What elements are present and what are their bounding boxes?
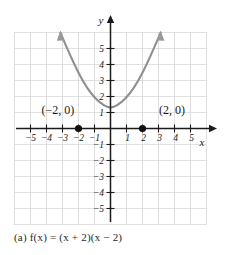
x-tick-label-5: 5 <box>189 133 194 143</box>
y-tick-label--3: −3 <box>93 172 104 182</box>
y-tick-label--1: −1 <box>93 140 104 150</box>
x-axis-arrow <box>209 125 217 132</box>
x-tick-label--5: −5 <box>25 133 36 143</box>
x-tick-label-2: 2 <box>141 133 146 143</box>
y-tick-label--4: −4 <box>93 188 104 198</box>
x-tick-label-3: 3 <box>156 133 162 143</box>
y-tick-label-5: 5 <box>99 44 104 54</box>
left-root-label: (−2, 0) <box>42 103 75 117</box>
y-axis-arrow <box>107 15 114 23</box>
y-axis-name: y <box>98 14 104 26</box>
root-point-right <box>139 125 146 132</box>
y-tick-label-3: 3 <box>98 76 104 86</box>
x-tick-label--4: −4 <box>41 133 52 143</box>
y-tick-label--2: −2 <box>93 156 104 166</box>
x-axis-name: x <box>199 136 205 148</box>
x-tick-label-4: 4 <box>173 133 178 143</box>
figure-caption: (a) f(x) = (x + 2)(x − 2) <box>14 231 234 243</box>
x-tick-label--2: −2 <box>73 133 84 143</box>
y-tick-label--5: −5 <box>93 204 104 214</box>
y-axis <box>107 15 114 222</box>
x-tick-label--3: −3 <box>57 133 68 143</box>
y-tick-label-1: 1 <box>99 108 104 118</box>
x-tick-label-1: 1 <box>125 133 130 143</box>
right-root-label: (2, 0) <box>159 103 185 117</box>
root-point-left <box>75 125 82 132</box>
parabola-figure: −5 −4 −3 −2 −1 1 2 3 4 5 5 4 3 2 1 −1 −2… <box>0 0 237 255</box>
coordinate-plane-chart: −5 −4 −3 −2 −1 1 2 3 4 5 5 4 3 2 1 −1 −2… <box>0 0 237 255</box>
curve-arrow-left <box>57 31 64 41</box>
y-tick-label-2: 2 <box>99 92 104 102</box>
x-tick-labels: −5 −4 −3 −2 −1 1 2 3 4 5 <box>25 133 194 143</box>
y-tick-label-4: 4 <box>99 60 104 70</box>
